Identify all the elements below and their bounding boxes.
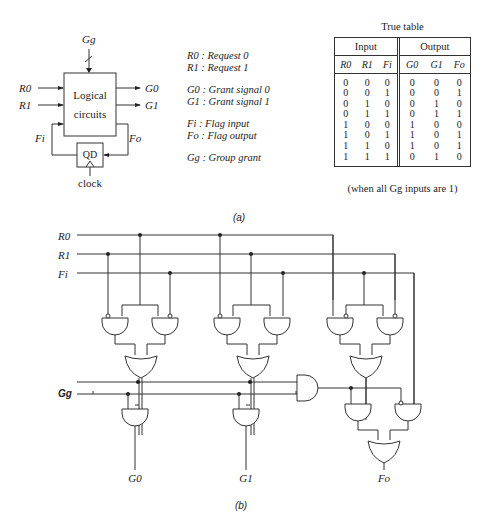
caption-b: (b) (235, 500, 247, 511)
truth-table-title: True table (334, 21, 471, 32)
svg-text:R1: R1 (57, 249, 70, 261)
legend-item: G1 : Grant signal 1 (187, 96, 270, 108)
svg-text:clock: clock (78, 177, 102, 189)
legend-item: Fo : Flag output (187, 130, 270, 142)
truth-table: Input Output R0 R1 Fi G0 G1 Fo 000000 00… (334, 37, 471, 167)
svg-text:Fo: Fo (377, 472, 391, 484)
svg-text:Fi: Fi (57, 268, 68, 280)
table-row: 110101 (335, 141, 470, 152)
truth-table-note: (when all Gg inputs are 1) (320, 183, 483, 194)
svg-text:Gg: Gg (58, 388, 72, 399)
legend-item: Fi : Flag input (187, 118, 270, 130)
legend-item: G0 : Grant signal 0 (187, 84, 270, 96)
svg-text:R0: R0 (18, 82, 32, 94)
table-row: 000000 (335, 78, 470, 89)
label-gg-top: Gg (82, 33, 96, 45)
svg-text:QD: QD (83, 149, 97, 160)
svg-text:G1: G1 (239, 472, 252, 484)
table-row: 100100 (335, 120, 470, 131)
svg-text:G0: G0 (128, 472, 142, 484)
svg-text:R1: R1 (18, 99, 31, 111)
legend-item: Gg : Group grant (187, 152, 270, 164)
legend-item: R0 : Request 0 (187, 50, 270, 62)
legend-item: R1 : Request 1 (187, 62, 270, 74)
svg-text:Fo: Fo (128, 132, 142, 144)
caption-a: (a) (233, 212, 245, 223)
svg-text:G0: G0 (145, 82, 159, 94)
table-row: 010010 (335, 99, 470, 110)
table-row: 001001 (335, 88, 470, 99)
signal-legend: R0 : Request 0 R1 : Request 1 G0 : Grant… (187, 50, 270, 164)
svg-text:Logical: Logical (73, 89, 107, 101)
logical-circuits-block (64, 73, 116, 136)
table-row: 111010 (335, 152, 470, 163)
svg-text:Fi: Fi (34, 132, 45, 144)
table-row: 011011 (335, 109, 470, 120)
svg-text:circuits: circuits (74, 108, 106, 120)
svg-text:R0: R0 (57, 230, 71, 242)
svg-text:G1: G1 (145, 99, 158, 111)
table-row: 101101 (335, 130, 470, 141)
